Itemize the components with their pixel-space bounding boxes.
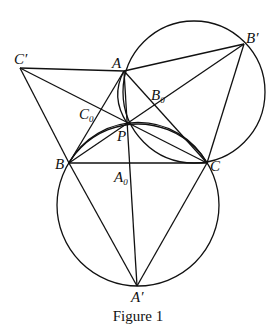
label-a0: A0 bbox=[113, 169, 128, 187]
segment-b-prime-b bbox=[69, 44, 244, 163]
figure-caption: Figure 1 bbox=[113, 308, 163, 324]
label-c-prime: C′ bbox=[14, 51, 28, 67]
segment-c-prime-c bbox=[20, 68, 207, 163]
circle-bca-prime bbox=[57, 124, 219, 286]
label-c: C bbox=[210, 158, 221, 174]
label-b0: B0 bbox=[151, 87, 165, 105]
segment-c-b-prime bbox=[207, 44, 244, 163]
geometry-figure: A B C P A′ B′ C′ A0 B0 C0 Figure 1 bbox=[0, 0, 277, 335]
label-p: P bbox=[116, 128, 126, 144]
segment-c-prime-b bbox=[20, 68, 69, 163]
label-a-prime: A′ bbox=[130, 289, 144, 305]
label-a: A bbox=[111, 55, 122, 71]
label-c0: C0 bbox=[79, 106, 94, 124]
segment-c-a-prime bbox=[137, 163, 207, 286]
circle-apc-b-prime bbox=[123, 21, 265, 163]
label-b: B bbox=[55, 156, 64, 172]
label-b-prime: B′ bbox=[246, 30, 259, 46]
segment-a-b-prime bbox=[124, 44, 244, 71]
segment-c-prime-a bbox=[20, 68, 124, 71]
